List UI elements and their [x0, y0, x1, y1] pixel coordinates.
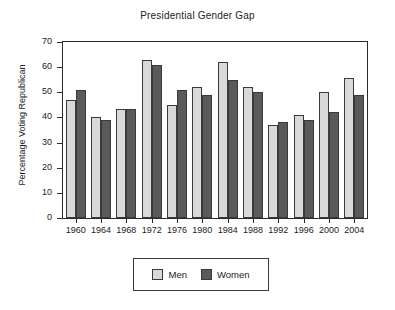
bar-women-1984: [228, 80, 238, 218]
y-tick-label: 20: [42, 162, 52, 172]
bar-women-1996: [304, 120, 314, 218]
x-tick-label-1980: 1980: [190, 225, 215, 235]
y-tick-label: 50: [42, 86, 52, 96]
bar-group: [344, 42, 364, 218]
bar-group: [319, 42, 339, 218]
presidential-gender-gap-chart: Presidential Gender Gap Percentage Votin…: [0, 0, 395, 310]
x-tick-label-1988: 1988: [240, 225, 265, 235]
x-tick-label-1992: 1992: [266, 225, 291, 235]
bar-men-1968: [116, 109, 126, 218]
bar-group: [116, 42, 136, 218]
legend-item-women: Women: [201, 269, 250, 280]
bar-women-2000: [329, 112, 339, 218]
y-tick-label: 10: [42, 187, 52, 197]
x-tick-label-2004: 2004: [342, 225, 367, 235]
bar-women-1964: [101, 120, 111, 218]
bar-women-1972: [152, 65, 162, 218]
bar-group: [294, 42, 314, 218]
x-tick-label-1960: 1960: [63, 225, 88, 235]
bar-men-1960: [66, 100, 76, 218]
x-tick-mark: [278, 219, 279, 223]
legend-label-men: Men: [168, 269, 186, 280]
bar-men-2000: [319, 92, 329, 218]
bar-group: [142, 42, 162, 218]
bar-men-1972: [142, 60, 152, 218]
legend-item-men: Men: [152, 269, 186, 280]
x-tick-label-1964: 1964: [88, 225, 113, 235]
y-axis-label: Percentage Voting Republican: [17, 40, 27, 210]
bar-men-2004: [344, 78, 354, 218]
bars-layer: [63, 42, 367, 218]
x-tick-mark: [101, 219, 102, 223]
x-tick-label-1984: 1984: [215, 225, 240, 235]
bar-women-2004: [354, 95, 364, 218]
x-tick-mark: [152, 219, 153, 223]
bar-women-1968: [126, 109, 136, 218]
bar-women-1960: [76, 90, 86, 218]
x-tick-mark: [329, 219, 330, 223]
x-tick-label-1976: 1976: [164, 225, 189, 235]
x-tick-mark: [76, 219, 77, 223]
bar-women-1980: [202, 95, 212, 218]
bar-men-1992: [268, 125, 278, 218]
bar-men-1964: [91, 117, 101, 218]
y-tick-label: 0: [47, 212, 52, 222]
x-tick-mark: [202, 219, 203, 223]
chart-title: Presidential Gender Gap: [0, 10, 395, 21]
bar-group: [192, 42, 212, 218]
x-tick-label-1968: 1968: [114, 225, 139, 235]
bar-group: [91, 42, 111, 218]
legend-label-women: Women: [217, 269, 250, 280]
x-tick-label-2000: 2000: [316, 225, 341, 235]
x-tick-mark: [126, 219, 127, 223]
x-tick-mark: [228, 219, 229, 223]
y-tick-label: 70: [42, 36, 52, 46]
x-tick-mark: [253, 219, 254, 223]
y-tick-label: 60: [42, 61, 52, 71]
y-tick-label: 30: [42, 137, 52, 147]
y-tick-label: 40: [42, 111, 52, 121]
legend-swatch-men: [152, 269, 163, 280]
bar-group: [66, 42, 86, 218]
bar-group: [167, 42, 187, 218]
bar-group: [243, 42, 263, 218]
bar-men-1988: [243, 87, 253, 218]
x-tick-label-1996: 1996: [291, 225, 316, 235]
bar-group: [268, 42, 288, 218]
bar-women-1988: [253, 92, 263, 218]
x-tick-mark: [304, 219, 305, 223]
bar-women-1992: [278, 122, 288, 218]
x-axis: 1960196419681972197619801984198819921996…: [63, 219, 367, 243]
bar-men-1996: [294, 115, 304, 218]
bar-men-1984: [218, 62, 228, 218]
bar-men-1976: [167, 105, 177, 218]
x-tick-mark: [354, 219, 355, 223]
x-tick-label-1972: 1972: [139, 225, 164, 235]
x-tick-mark: [177, 219, 178, 223]
bar-women-1976: [177, 90, 187, 218]
bar-group: [218, 42, 238, 218]
chart-legend: Men Women: [133, 258, 269, 291]
bar-men-1980: [192, 87, 202, 218]
legend-swatch-women: [201, 269, 212, 280]
